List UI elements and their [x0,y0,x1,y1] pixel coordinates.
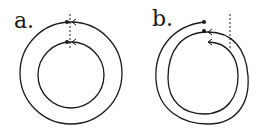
spiral-loop-diagram [132,0,264,140]
inner-start-dot [65,40,69,44]
panel-b: b. [132,0,264,140]
outer-start-dot [65,20,69,24]
start-dot-top [202,20,206,24]
outer-circle [20,22,122,124]
inner-circle [38,42,104,108]
concentric-circles-diagram [0,0,132,140]
panel-a: a. [0,0,132,140]
spiral-path [156,22,248,124]
start-dot-middle [202,29,206,33]
